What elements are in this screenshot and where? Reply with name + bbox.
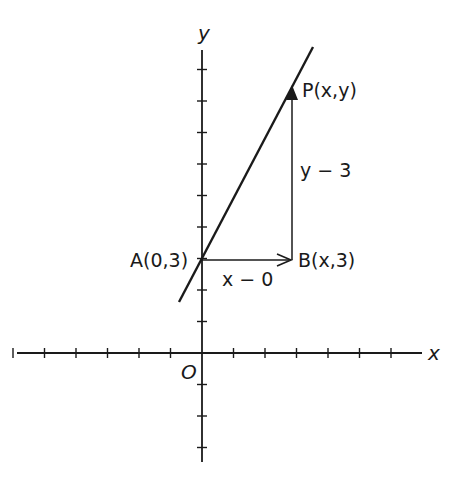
x-axis-label: x bbox=[427, 341, 440, 365]
point-p-label: P(x,y) bbox=[302, 79, 357, 101]
line-through-a-and-p bbox=[179, 47, 313, 302]
point-b-label: B(x,3) bbox=[298, 249, 355, 271]
y-axis-label: y bbox=[197, 21, 211, 45]
vertical-change-label: y − 3 bbox=[300, 159, 351, 181]
horizontal-change-label: x − 0 bbox=[222, 268, 273, 290]
origin-label: O bbox=[181, 360, 197, 384]
diagram-canvas: y x O A(0,3) B(x,3) P(x,y) x − 0 y − 3 bbox=[0, 0, 454, 483]
point-a-label: A(0,3) bbox=[130, 249, 188, 271]
slope-diagram: y x O A(0,3) B(x,3) P(x,y) x − 0 y − 3 bbox=[0, 0, 454, 483]
